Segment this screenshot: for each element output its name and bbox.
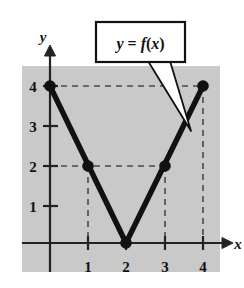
callout-label-equals: = — [128, 35, 137, 52]
y-tick-label-3: 3 — [29, 119, 37, 135]
x-axis-arrowhead — [222, 238, 233, 249]
x-tick-label-4: 4 — [199, 259, 207, 275]
plot-svg: y=f(x) y x 1 2 3 4 1 2 3 4 — [0, 0, 244, 288]
callout-label-y: y — [114, 35, 124, 53]
figure-graph-of-f: y=f(x) y x 1 2 3 4 1 2 3 4 — [0, 0, 244, 288]
data-point-4-4 — [197, 80, 209, 92]
y-axis-arrowhead — [45, 45, 56, 56]
y-tick-label-2: 2 — [29, 159, 37, 175]
y-tick-label-1: 1 — [29, 199, 37, 215]
data-point-2-0 — [120, 237, 132, 249]
x-tick-label-2: 2 — [122, 259, 130, 275]
callout-label-close-paren: ) — [159, 35, 164, 53]
callout-label-x: x — [150, 35, 159, 52]
data-point-0-4 — [44, 80, 56, 92]
data-point-1-2 — [82, 160, 94, 172]
x-tick-label-3: 3 — [161, 259, 169, 275]
data-point-3-2 — [159, 160, 171, 172]
y-tick-label-4: 4 — [29, 79, 37, 95]
x-axis-label: x — [233, 236, 242, 252]
x-tick-label-1: 1 — [84, 259, 92, 275]
y-axis-label: y — [38, 29, 47, 45]
